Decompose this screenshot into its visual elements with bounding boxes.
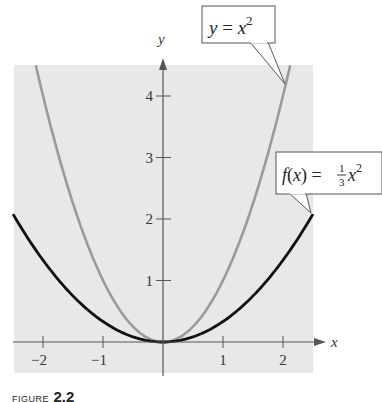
y-tick-label: 3 — [146, 150, 154, 166]
figure-caption: FIGURE 2.2 — [12, 388, 74, 402]
x-tick-label: −1 — [91, 352, 107, 368]
y-tick-label: 1 — [146, 273, 154, 289]
chart-figure: x y −2−112 1234 y = x2 f(x) = 1 3 x2 — [0, 0, 382, 402]
y-tick-label: 2 — [146, 211, 154, 227]
x-axis-arrow-icon — [314, 338, 326, 346]
svg-text:y = x2: y = x2 — [207, 13, 253, 38]
x-tick-label: 2 — [279, 352, 287, 368]
svg-text:f(x) =: f(x) = — [282, 165, 322, 186]
y-axis-label: y — [156, 31, 165, 47]
svg-text:1: 1 — [339, 162, 345, 174]
x-tick-label: 1 — [219, 352, 227, 368]
exponent: 2 — [246, 13, 253, 28]
x-axis-label: x — [330, 334, 338, 350]
svg-text:3: 3 — [339, 176, 345, 188]
caption-number: 2.2 — [53, 388, 74, 402]
y-axis-arrow-icon — [159, 58, 167, 70]
x-tick-label: −2 — [31, 352, 47, 368]
y-tick-label: 4 — [146, 88, 154, 104]
caption-word: FIGURE — [12, 394, 49, 402]
